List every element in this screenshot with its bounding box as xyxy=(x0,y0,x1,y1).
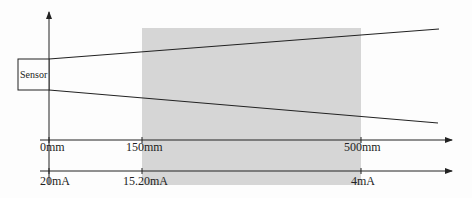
sensor-label: Sensor xyxy=(20,69,48,80)
sensor-range-diagram: Sensor 0mm 150mm 500mm 20mA 15.20mA 4mA xyxy=(0,0,472,198)
current-label-15-20: 15.20mA xyxy=(123,174,168,188)
distance-label-150: 150mm xyxy=(126,140,163,154)
distance-label-0: 0mm xyxy=(40,140,65,154)
current-label-4: 4mA xyxy=(351,174,375,188)
diagram-svg: Sensor 0mm 150mm 500mm 20mA 15.20mA 4mA xyxy=(0,0,472,198)
measuring-range-area xyxy=(142,28,361,185)
current-label-20: 20mA xyxy=(40,174,70,188)
distance-label-500: 500mm xyxy=(344,140,381,154)
